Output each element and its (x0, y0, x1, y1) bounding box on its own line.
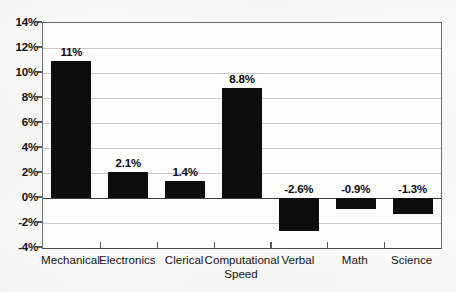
x-axis-tick-mark (157, 242, 158, 248)
y-axis-tick-label: -2% (4, 216, 38, 228)
y-axis-tick-label: 12% (4, 41, 38, 53)
bar (165, 181, 205, 199)
y-axis-tick-label: 4% (4, 141, 38, 153)
y-axis-tick-label: 2% (4, 166, 38, 178)
bar-value-label: -1.3% (379, 183, 447, 195)
x-axis-tick-mark (214, 242, 215, 248)
bar (222, 88, 262, 198)
x-axis-tick-mark (327, 242, 328, 248)
gridline (43, 223, 441, 224)
x-axis-category-label: Science (375, 253, 448, 267)
zero-line (43, 198, 441, 199)
plot-area: 11%2.1%1.4%8.8%-2.6%-0.9%-1.3% (42, 22, 442, 249)
bar-value-label: 1.4% (151, 166, 219, 178)
y-axis-tick-label: 0% (4, 191, 38, 203)
x-axis-tick-mark (270, 242, 271, 248)
x-axis-tick-mark (100, 242, 101, 248)
y-axis-tick-label: 8% (4, 91, 38, 103)
y-axis-tick-label: 10% (4, 66, 38, 78)
y-axis-tick-label: 14% (4, 16, 38, 28)
y-axis-tick-label: 6% (4, 116, 38, 128)
bar (51, 61, 91, 199)
y-axis-tick-label: -4% (4, 241, 38, 253)
chart-page: 11%2.1%1.4%8.8%-2.6%-0.9%-1.3% 14%12%10%… (0, 0, 456, 292)
bar (108, 172, 148, 198)
bar (393, 198, 433, 214)
bar-value-label: 8.8% (208, 73, 276, 85)
x-axis-tick-mark (384, 242, 385, 248)
bar-value-label: 11% (37, 46, 105, 58)
bar (336, 198, 376, 209)
bar (279, 198, 319, 231)
